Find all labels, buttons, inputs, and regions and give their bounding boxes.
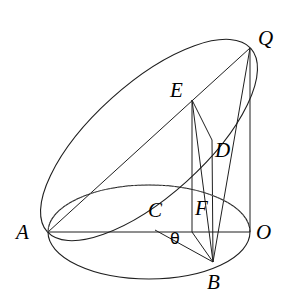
label-F: F [195, 198, 208, 219]
label-A: A [16, 222, 29, 243]
label-B: B [207, 272, 220, 293]
label-Q: Q [258, 28, 273, 49]
label-O: O [256, 222, 271, 243]
label-theta: θ [170, 231, 180, 247]
segment-DB [212, 140, 213, 262]
label-C: C [148, 200, 162, 221]
geometry-figure [0, 0, 297, 307]
label-D: D [215, 140, 230, 161]
segment-CB [155, 230, 213, 262]
figure-canvas: Q E D F C θ A O B [0, 0, 297, 307]
segment-EB [192, 100, 213, 262]
label-E: E [170, 80, 183, 101]
